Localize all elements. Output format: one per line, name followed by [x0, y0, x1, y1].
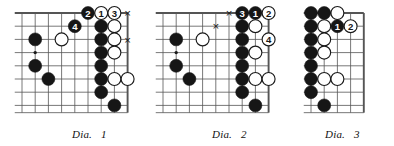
go-diagram-page: ××2413Dia.1××3124Dia.212Dia.3: [0, 0, 394, 146]
black-stone: [305, 73, 318, 86]
black-stone: [305, 86, 318, 99]
black-stone: [305, 20, 318, 33]
white-stone: [318, 20, 331, 33]
caption-number: 3: [354, 128, 360, 140]
white-stone: [318, 46, 331, 59]
black-stone: [318, 99, 331, 112]
board-canvas-3: 12: [0, 0, 394, 146]
white-stone: [331, 73, 344, 86]
move-number-label: 1: [335, 21, 341, 32]
black-stone: [318, 7, 331, 20]
white-stone: [318, 73, 331, 86]
white-stone: [318, 33, 331, 46]
black-stone: [305, 7, 318, 20]
black-stone: [305, 33, 318, 46]
black-stone: [305, 46, 318, 59]
white-stone: [331, 7, 344, 20]
diagram-caption-3: Dia.3: [325, 128, 360, 140]
move-stone-1: 1: [331, 20, 344, 33]
move-number-label: 2: [348, 21, 353, 32]
black-stone: [305, 59, 318, 72]
move-stone-2: 2: [344, 20, 357, 33]
caption-label: Dia.: [325, 128, 345, 140]
